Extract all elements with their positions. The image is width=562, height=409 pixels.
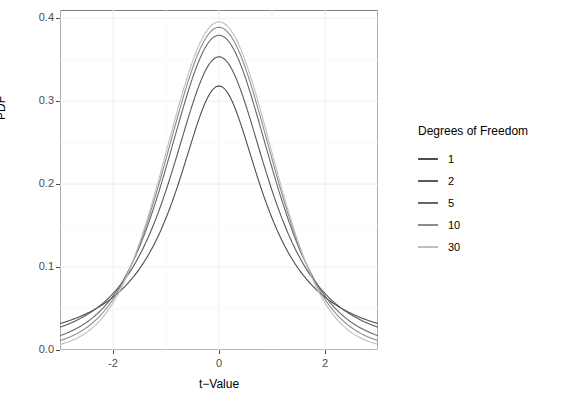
- legend-item[interactable]: 1: [418, 148, 558, 170]
- y-tick-label: 0.0: [26, 343, 54, 355]
- legend-key-line-icon: [418, 180, 438, 182]
- x-tick-label: -2: [93, 357, 133, 369]
- y-tick-label: 0.2: [26, 177, 54, 189]
- legend-item[interactable]: 10: [418, 214, 558, 236]
- y-tick-label: 0.1: [26, 260, 54, 272]
- x-axis-label: t−Value: [60, 377, 378, 391]
- legend-item-label: 1: [448, 153, 454, 165]
- x-tick-mark: [219, 350, 220, 354]
- legend-key-line-icon: [418, 158, 438, 160]
- data-curves: [60, 10, 378, 350]
- x-tick-label: 0: [199, 357, 239, 369]
- x-tick-mark: [325, 350, 326, 354]
- legend-key-line-icon: [418, 246, 438, 248]
- legend-item-label: 2: [448, 175, 454, 187]
- y-tick-label: 0.4: [26, 11, 54, 23]
- legend-item-label: 5: [448, 197, 454, 209]
- legend-item[interactable]: 5: [418, 192, 558, 214]
- plot-panel: [60, 10, 378, 350]
- x-tick-label: 2: [305, 357, 345, 369]
- legend-key-line-icon: [418, 224, 438, 226]
- legend-item[interactable]: 30: [418, 236, 558, 258]
- y-tick-label: 0.3: [26, 94, 54, 106]
- legend-item[interactable]: 2: [418, 170, 558, 192]
- x-tick-mark: [113, 350, 114, 354]
- y-tick-mark: [56, 350, 60, 351]
- legend: Degrees of Freedom 1251030: [418, 124, 558, 258]
- y-axis-label: PDF: [0, 48, 8, 168]
- legend-item-label: 30: [448, 241, 460, 253]
- chart-root: PDF 0.00.10.20.30.4 -202 t−Value Degrees…: [0, 0, 562, 409]
- legend-item-label: 10: [448, 219, 460, 231]
- legend-key-line-icon: [418, 202, 438, 204]
- legend-items: 1251030: [418, 148, 558, 258]
- legend-title: Degrees of Freedom: [418, 124, 558, 138]
